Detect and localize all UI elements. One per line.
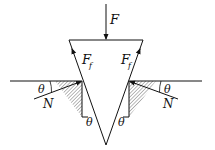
theta-label-left-outer: θ [38, 83, 45, 96]
angle-arc-left-outer [50, 81, 52, 92]
friction-arrow-left [72, 49, 74, 54]
normal-label-right: N [162, 97, 174, 111]
theta-label-right-outer: θ [164, 83, 171, 96]
angle-arc-right-outer [159, 81, 161, 92]
diagram-canvas: F F f F f N N θ θ θ θ [0, 0, 215, 150]
wedge-force-diagram: F F f F f N N θ θ θ θ [0, 0, 215, 150]
theta-label-left-inner: θ [86, 116, 93, 129]
theta-label-right-inner: θ [118, 116, 125, 129]
normal-label-left: N [42, 97, 54, 111]
friction-label-left-sub: f [88, 61, 94, 70]
friction-arrow-right [138, 49, 140, 54]
applied-force-label: F [109, 12, 120, 27]
friction-label-right-sub: f [127, 61, 133, 70]
